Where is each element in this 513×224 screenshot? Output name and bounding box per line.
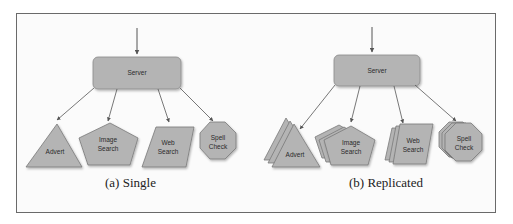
arrow-to-image-search: [108, 89, 117, 121]
web-search-label-1: Web: [161, 139, 175, 146]
image-search-node: [79, 123, 138, 165]
advert-stack: Advert: [264, 118, 320, 167]
caption-replicated: (b) Replicated: [349, 175, 423, 191]
panel-replicated: Server Advert Image Search Web Search: [264, 27, 482, 167]
spell-check-stack: Spell Check: [439, 122, 482, 161]
arrow-to-spell-check: [180, 88, 213, 121]
server-label: Server: [367, 67, 387, 74]
web-search-label-1: Web: [406, 137, 420, 144]
web-search-stack: Web Search: [385, 124, 433, 164]
spell-check-label-2: Check: [455, 144, 474, 151]
web-search-label-2: Search: [403, 146, 424, 153]
caption-single: (a) Single: [105, 175, 156, 191]
spell-check-label-1: Spell: [457, 135, 472, 143]
diagram-canvas: Server Advert Image Search Web Search Sp…: [0, 0, 513, 224]
arrow-to-web-search: [158, 89, 169, 122]
spell-check-label-2: Check: [209, 143, 228, 150]
image-search-label-2: Search: [341, 148, 362, 155]
web-search-label-2: Search: [158, 148, 179, 155]
advert-label: Advert: [286, 151, 305, 158]
image-search-label-1: Image: [342, 139, 360, 147]
arrow-to-advert: [300, 85, 335, 129]
arrow-to-spell-check: [415, 85, 456, 121]
advert-label: Advert: [46, 148, 65, 155]
panel-single: Server Advert Image Search Web Search Sp…: [26, 28, 236, 167]
arrow-to-web-search: [394, 86, 403, 123]
image-search-label-1: Image: [99, 136, 117, 144]
arrow-to-image-search: [351, 86, 360, 122]
image-search-stack: Image Search: [315, 125, 375, 165]
advert-node: [26, 124, 82, 167]
arrow-to-advert: [57, 88, 94, 120]
web-search-node: [142, 127, 194, 167]
spell-check-label-1: Spell: [211, 134, 226, 142]
image-search-label-2: Search: [98, 145, 119, 152]
server-label: Server: [127, 69, 147, 76]
